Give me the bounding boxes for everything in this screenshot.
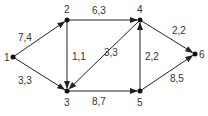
node-6	[193, 52, 198, 57]
edge-label: 7,4	[18, 32, 32, 43]
node-label: 1	[4, 52, 10, 63]
node-2	[65, 18, 70, 23]
edge-label: 8,5	[170, 73, 184, 84]
node-4	[138, 18, 143, 23]
edge-label: 6,3	[92, 5, 106, 16]
network-graph: 7,43,36,31,13,38,72,22,28,5123456	[0, 0, 208, 116]
node-label: 5	[137, 97, 143, 108]
node-label: 2	[64, 4, 70, 15]
edge-label: 3,3	[104, 47, 118, 58]
edge-label: 3,3	[18, 75, 32, 86]
node-1	[11, 55, 16, 60]
node-label: 6	[199, 49, 205, 60]
edge-label: 8,7	[92, 96, 106, 107]
edge-label: 2,2	[172, 25, 186, 36]
node-label: 4	[137, 4, 143, 15]
node-5	[138, 89, 143, 94]
node-label: 3	[64, 97, 70, 108]
graph-canvas: 7,43,36,31,13,38,72,22,28,5123456	[0, 0, 208, 116]
edge-label: 1,1	[72, 51, 86, 62]
node-3	[65, 89, 70, 94]
edge-label: 2,2	[145, 51, 159, 62]
